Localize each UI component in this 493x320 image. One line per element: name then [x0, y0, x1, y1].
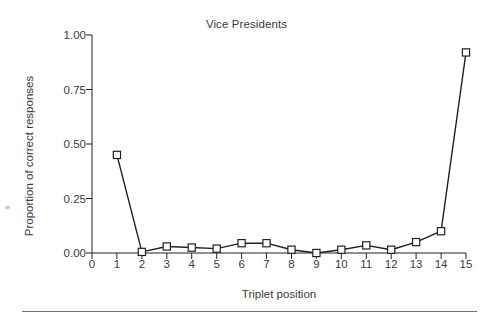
x-axis-ticks: [92, 253, 466, 259]
data-point-marker: [413, 239, 420, 246]
data-point-marker: [113, 151, 120, 158]
data-point-marker: [263, 240, 270, 247]
page-edge-artifact: [5, 206, 10, 209]
data-point-marker: [388, 246, 395, 253]
data-point-marker: [188, 244, 195, 251]
data-point-marker: [138, 248, 145, 255]
data-series-markers: [113, 49, 469, 257]
data-point-marker: [288, 246, 295, 253]
figure-vice-presidents: Vice Presidents Proportion of correct re…: [0, 0, 493, 320]
data-series-line: [117, 52, 466, 253]
data-point-marker: [338, 246, 345, 253]
data-point-marker: [163, 243, 170, 250]
data-point-marker: [363, 242, 370, 249]
data-point-marker: [213, 245, 220, 252]
data-point-marker: [313, 249, 320, 256]
data-point-marker: [437, 228, 444, 235]
y-axis-ticks: [86, 35, 92, 253]
plot-area: [0, 0, 493, 320]
footer-rule: [22, 311, 477, 312]
data-point-marker: [462, 49, 469, 56]
data-point-marker: [238, 240, 245, 247]
x-axis-title: Triplet position: [92, 288, 466, 300]
